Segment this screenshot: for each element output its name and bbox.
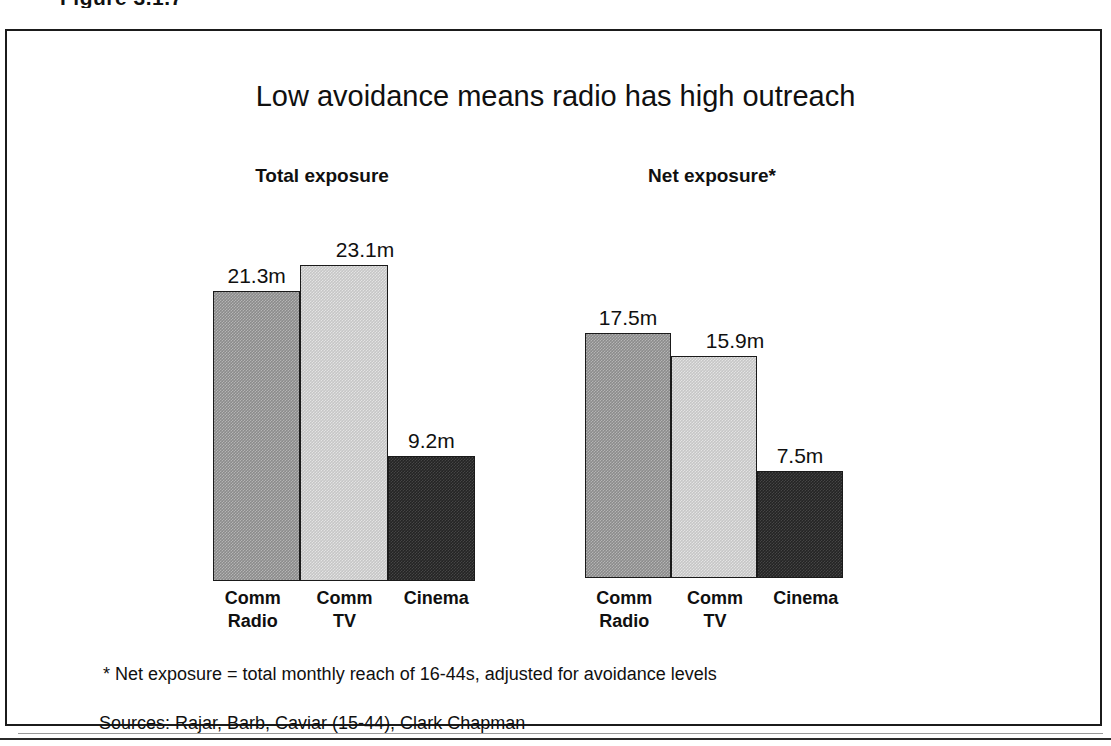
bar-value-comm-radio-total: 21.3m <box>227 264 285 288</box>
bar-cinema-total[interactable]: 9.2m <box>388 456 475 581</box>
bar-value-comm-radio-net: 17.5m <box>599 306 657 330</box>
bar-comm-radio-total[interactable]: 21.3m <box>213 291 300 581</box>
footnote-sources: Sources: Rajar, Barb, Caviar (15-44), Cl… <box>99 713 525 734</box>
bar-column-comm-radio-total: 21.3m <box>213 221 300 581</box>
category-label-comm-radio-total: Comm Radio <box>207 587 299 632</box>
category-line-1: Comm <box>299 587 391 610</box>
bar-value-comm-tv-net: 15.9m <box>706 329 764 353</box>
panel-heading-net-exposure: Net exposure* <box>547 165 877 187</box>
category-line-1: Comm <box>670 587 761 610</box>
figure-caption: Figure 3.1.7 <box>60 0 183 8</box>
footnote-net-exposure-definition: * Net exposure = total monthly reach of … <box>103 664 717 685</box>
category-line-1: Cinema <box>390 587 482 610</box>
figure-frame: Low avoidance means radio has high outre… <box>5 29 1102 726</box>
page-edge-line <box>0 738 1111 740</box>
category-line-1: Cinema <box>760 587 851 610</box>
bar-group-net-exposure: 17.5m 15.9m 7.5m <box>585 221 843 578</box>
panel-heading-total-exposure: Total exposure <box>157 165 487 187</box>
bar-cinema-net[interactable]: 7.5m <box>757 471 843 578</box>
category-line-1: Comm <box>579 587 670 610</box>
category-line-2: Radio <box>579 610 670 633</box>
plot-area-net-exposure: 17.5m 15.9m 7.5m <box>585 221 843 578</box>
bar-comm-radio-net[interactable]: 17.5m <box>585 333 671 578</box>
bar-column-cinema-net: 7.5m <box>757 221 843 578</box>
bar-comm-tv-total[interactable]: 23.1m <box>300 265 387 581</box>
bar-group-total-exposure: 21.3m 23.1m 9.2m <box>213 221 475 581</box>
page-edge-line-upper <box>18 733 1103 734</box>
bar-column-cinema-total: 9.2m <box>388 221 475 581</box>
category-labels-total-exposure: Comm Radio Comm TV Cinema <box>207 587 482 632</box>
category-label-comm-tv-total: Comm TV <box>299 587 391 632</box>
category-label-comm-radio-net: Comm Radio <box>579 587 670 632</box>
category-label-comm-tv-net: Comm TV <box>670 587 761 632</box>
bar-value-comm-tv-total: 23.1m <box>336 238 394 262</box>
category-line-2: TV <box>670 610 761 633</box>
category-labels-net-exposure: Comm Radio Comm TV Cinema <box>579 587 851 632</box>
plot-area-total-exposure: 21.3m 23.1m 9.2m <box>213 221 475 581</box>
chart-title: Low avoidance means radio has high outre… <box>7 80 1104 113</box>
bar-column-comm-tv-total: 23.1m <box>300 221 387 581</box>
category-line-2: Radio <box>207 610 299 633</box>
category-line-2: TV <box>299 610 391 633</box>
bar-column-comm-tv-net: 15.9m <box>671 221 757 578</box>
bar-column-comm-radio-net: 17.5m <box>585 221 671 578</box>
category-line-1: Comm <box>207 587 299 610</box>
bar-value-cinema-net: 7.5m <box>777 444 824 468</box>
bar-value-cinema-total: 9.2m <box>408 429 455 453</box>
category-label-cinema-total: Cinema <box>390 587 482 632</box>
bar-comm-tv-net[interactable]: 15.9m <box>671 356 757 578</box>
category-label-cinema-net: Cinema <box>760 587 851 632</box>
